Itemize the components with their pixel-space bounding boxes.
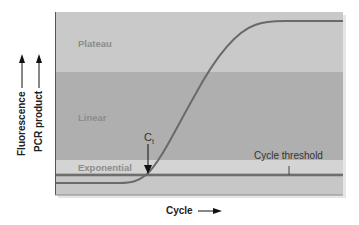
fluorescence-arrow-icon — [19, 54, 25, 63]
y-axis-label-fluorescence: Fluorescence — [16, 92, 27, 156]
ct-label-subscript: t — [152, 138, 154, 145]
chart-svg — [0, 0, 359, 225]
x-axis-label-cycle: Cycle — [166, 205, 193, 216]
cycle-arrow-icon — [213, 208, 222, 214]
cycle-threshold-label: Cycle threshold — [254, 150, 323, 161]
exponential-label: Exponential — [78, 162, 132, 173]
plateau-label: Plateau — [78, 38, 112, 49]
ct-label: Ct — [144, 131, 154, 145]
pcr-amplification-diagram: Fluorescence PCR product Cycle Plateau L… — [0, 0, 359, 225]
pcr-product-arrow-icon — [36, 54, 42, 63]
ct-label-base: C — [144, 131, 152, 143]
linear-label: Linear — [78, 112, 107, 123]
y-axis-label-pcr-product: PCR product — [33, 91, 44, 152]
